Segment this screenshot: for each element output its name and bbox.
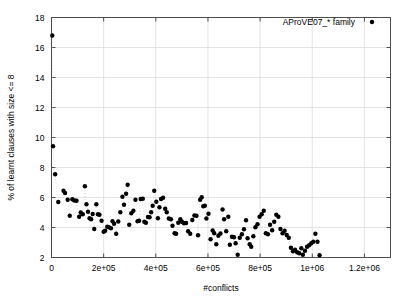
x-axis-tick-label: 2e+05 <box>92 263 116 273</box>
data-point <box>301 253 305 257</box>
data-point <box>196 233 200 237</box>
data-point <box>161 196 165 200</box>
y-axis-tick-label: 18 <box>35 13 45 23</box>
data-point <box>200 195 204 199</box>
data-point <box>144 221 148 225</box>
data-point <box>63 191 67 195</box>
data-point <box>317 253 321 257</box>
scatter-plot: 2468101214161802e+054e+056e+058e+051e+06… <box>0 0 409 305</box>
y-axis-tick-label: 16 <box>35 43 45 53</box>
data-point <box>156 216 160 220</box>
data-point <box>255 222 259 226</box>
x-axis-tick-label: 6e+05 <box>196 263 220 273</box>
data-point <box>240 232 244 236</box>
x-axis-tick-label: 1e+06 <box>300 263 324 273</box>
data-point <box>112 222 116 226</box>
x-axis-tick-label: 1.2e+06 <box>349 263 380 273</box>
legend-label: AProVE07_* family <box>283 17 356 27</box>
data-point <box>299 246 303 250</box>
data-point <box>311 240 315 244</box>
data-point <box>184 221 188 225</box>
data-point <box>125 183 129 187</box>
data-point <box>122 203 126 207</box>
data-point <box>262 209 266 213</box>
data-point <box>137 219 141 223</box>
data-point <box>109 226 113 230</box>
data-point <box>94 202 98 206</box>
data-point <box>114 232 118 236</box>
data-point <box>149 210 153 214</box>
data-point <box>99 219 103 223</box>
data-point <box>68 214 72 218</box>
y-axis-label: % of learnt clauses with size <= 8 <box>6 74 16 200</box>
y-axis-tick-label: 2 <box>40 253 45 263</box>
data-point <box>245 236 249 240</box>
y-axis-tick-label: 6 <box>40 193 45 203</box>
y-axis-tick-label: 8 <box>40 163 45 173</box>
data-point <box>150 204 154 208</box>
data-point <box>266 232 270 236</box>
data-point <box>152 189 156 193</box>
data-point <box>83 184 87 188</box>
x-axis-label: #conflicts <box>203 283 238 293</box>
data-point <box>118 210 122 214</box>
data-point <box>251 234 255 238</box>
data-point <box>92 227 96 231</box>
data-point <box>97 213 101 217</box>
data-point <box>313 232 317 236</box>
y-axis-tick-label: 4 <box>40 223 45 233</box>
data-point <box>154 200 158 204</box>
data-point <box>249 245 253 249</box>
legend-marker-icon <box>370 20 374 24</box>
data-point <box>86 210 90 214</box>
data-point <box>244 218 248 222</box>
data-point <box>81 212 85 216</box>
x-axis-tick-label: 0 <box>49 263 54 273</box>
data-point <box>218 231 222 235</box>
data-point <box>287 236 291 240</box>
data-point <box>165 210 169 214</box>
data-point <box>50 33 54 37</box>
data-point <box>53 172 57 176</box>
data-point <box>204 216 208 220</box>
data-point <box>278 227 282 231</box>
data-point <box>157 205 161 209</box>
data-point <box>170 224 174 228</box>
data-point <box>91 212 95 216</box>
data-point <box>141 197 145 201</box>
y-axis-tick-label: 10 <box>35 133 45 143</box>
data-point <box>89 217 93 221</box>
x-axis-tick-label: 8e+05 <box>248 263 272 273</box>
data-point <box>226 215 230 219</box>
data-point <box>232 235 236 239</box>
data-point <box>124 192 128 196</box>
data-point <box>303 249 307 253</box>
data-point <box>203 204 207 208</box>
data-point <box>242 227 246 231</box>
data-point <box>131 209 135 213</box>
data-point <box>224 229 228 233</box>
data-point <box>282 229 286 233</box>
data-point <box>268 223 272 227</box>
data-point <box>147 215 151 219</box>
y-axis-tick-label: 12 <box>35 103 45 113</box>
y-axis-tick-label: 14 <box>35 73 45 83</box>
data-point <box>194 214 198 218</box>
data-point <box>228 243 232 247</box>
chart-container: 2468101214161802e+054e+056e+058e+051e+06… <box>0 0 409 305</box>
data-point <box>272 220 276 224</box>
data-point <box>222 217 226 221</box>
data-point <box>51 144 55 148</box>
data-point <box>103 229 107 233</box>
data-point <box>212 231 216 235</box>
data-point <box>116 219 120 223</box>
data-point <box>233 241 237 245</box>
data-point <box>214 242 218 246</box>
data-point <box>315 240 319 244</box>
data-point <box>120 195 124 199</box>
x-axis-tick-label: 4e+05 <box>144 263 168 273</box>
data-point <box>74 199 78 203</box>
data-point <box>56 200 60 204</box>
data-point <box>174 232 178 236</box>
data-point <box>220 207 224 211</box>
